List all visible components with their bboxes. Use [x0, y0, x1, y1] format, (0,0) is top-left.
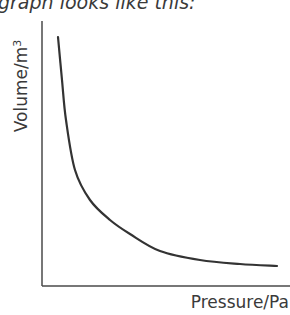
data-curve — [58, 37, 277, 266]
x-axis-label: Pressure/Pa — [191, 292, 289, 312]
chart-plot — [0, 0, 290, 315]
